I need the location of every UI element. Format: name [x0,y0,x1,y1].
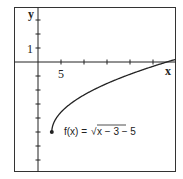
y-axis-label: y [28,7,34,21]
x-tick-label-5: 5 [58,67,64,81]
x-axis-label: x [165,64,171,78]
function-label: f(x) = √ x − 3 − 5 [64,125,136,137]
function-label-prefix: f(x) = [64,126,87,137]
plot-area [15,8,176,172]
function-curve [52,59,176,132]
function-graph: y x 5 1 f(x) = √ x − 3 − 5 [0,0,183,179]
start-point-dot [50,130,54,134]
function-label-radicand: x − 3 − 5 [97,126,136,137]
y-tick-label-1: 1 [27,42,33,56]
